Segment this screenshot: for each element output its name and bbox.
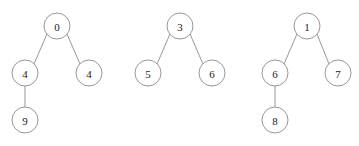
node-label-t3-n3: 8 [272,115,278,127]
tree-node-t3-n0[interactable]: 1 [294,13,320,39]
binary-tree-3: 1678 [262,13,351,133]
tree-node-t1-n1[interactable]: 4 [12,60,38,86]
node-label-t1-n0: 0 [54,21,60,33]
tree-node-t3-n2[interactable]: 7 [325,60,351,86]
tree-node-t3-n3[interactable]: 8 [262,107,288,133]
tree-edge-t1-n0-to-t1-n2 [67,34,80,64]
tree-edge-t2-n0-to-t2-n1 [157,34,170,64]
tree-edge-t2-n0-to-t2-n2 [190,34,203,64]
tree-edge-t3-n0-to-t3-n2 [317,34,329,64]
binary-tree-2: 356 [135,13,225,86]
tree-node-t1-n2[interactable]: 4 [76,60,102,86]
node-label-t1-n1: 4 [22,68,28,80]
node-label-t1-n2: 4 [86,68,92,80]
tree-node-t1-n3[interactable]: 9 [12,107,38,133]
binary-trees-figure: 04493561678 [0,0,359,146]
tree-node-t2-n1[interactable]: 5 [135,60,161,86]
tree-node-t2-n0[interactable]: 3 [167,13,193,39]
tree-node-t3-n1[interactable]: 6 [262,60,288,86]
node-label-t2-n0: 3 [177,21,183,33]
binary-tree-1: 0449 [12,13,102,133]
tree-node-t1-n0[interactable]: 0 [44,13,70,39]
node-label-t3-n0: 1 [304,21,310,33]
tree-edge-t3-n0-to-t3-n1 [284,34,297,64]
node-label-t2-n2: 6 [209,68,215,80]
trees-canvas: 04493561678 [0,0,359,146]
tree-node-t2-n2[interactable]: 6 [199,60,225,86]
node-label-t3-n1: 6 [272,68,278,80]
node-label-t3-n2: 7 [335,68,341,80]
node-label-t1-n3: 9 [22,115,28,127]
tree-edge-t1-n0-to-t1-n1 [34,34,47,64]
node-label-t2-n1: 5 [145,68,151,80]
